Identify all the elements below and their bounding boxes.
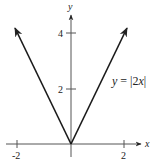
graph-absolute-value: -2 2 2 4 x y y = |2x|: [0, 0, 156, 163]
curve-equation-label: y = |2x|: [111, 74, 146, 88]
y-tick-label-2: 2: [58, 84, 63, 95]
x-tick-label-2: 2: [121, 150, 126, 161]
x-axis-label: x: [144, 138, 150, 149]
y-tick-label-4: 4: [58, 28, 63, 39]
y-axis-label: y: [67, 1, 73, 12]
x-tick-label-neg2: -2: [12, 150, 20, 161]
